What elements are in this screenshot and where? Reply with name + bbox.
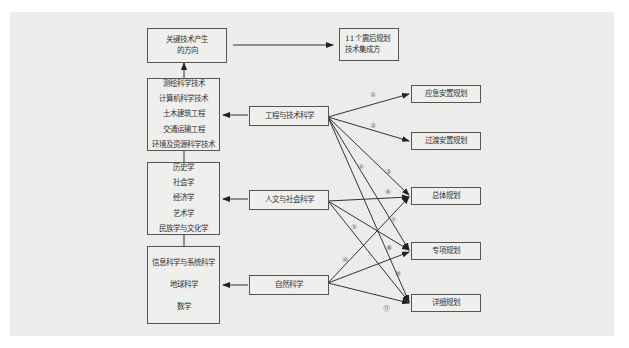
plan-detailed: 详细规划 xyxy=(411,294,481,312)
plan-transition: 过渡安置规划 xyxy=(411,132,481,150)
discipline-item: 历史学 xyxy=(173,163,194,173)
category-natural: 自然科学 xyxy=(249,275,329,295)
engineering-disciplines-box: 测绘科学技术 计算机科学技术 土木建筑工程 交通运输工程 环境及资源科学技术 xyxy=(147,78,220,151)
category-engineering: 工程与技术科学 xyxy=(249,106,329,126)
integration-box: 11个震后规划 技术集成方 xyxy=(339,28,399,61)
link-label-5: ⑤ xyxy=(351,223,357,231)
category-label: 人文与社会科学 xyxy=(265,195,314,205)
key-tech-direction-box: 关键技术产生 的方向 xyxy=(147,28,227,63)
link-label-4: ④ xyxy=(358,163,364,171)
category-label: 工程与技术科学 xyxy=(265,111,314,121)
plan-emergency: 应急安置规划 xyxy=(411,85,481,103)
plan-special: 专项规划 xyxy=(411,242,481,260)
discipline-item: 地球科学 xyxy=(170,280,198,290)
integration-line-1: 11个震后规划 xyxy=(345,34,390,44)
discipline-item: 交通运输工程 xyxy=(163,125,205,135)
link-label-7: ⑦ xyxy=(390,216,396,224)
link-label-2: ② xyxy=(370,122,376,130)
discipline-item: 信息科学与系统科学 xyxy=(152,258,215,268)
discipline-item: 计算机科学技术 xyxy=(159,94,208,104)
discipline-item: 民族学与文化学 xyxy=(159,224,208,234)
key-tech-line-1: 关键技术产生 xyxy=(166,35,208,45)
category-humanities: 人文与社会科学 xyxy=(249,190,329,210)
category-label: 自然科学 xyxy=(275,280,303,290)
link-label-10: ⑩ xyxy=(342,256,348,264)
link-label-9: ⑨ xyxy=(395,270,401,278)
discipline-item: 环境及资源科学技术 xyxy=(152,140,215,150)
discipline-item: 测绘科学技术 xyxy=(163,79,205,89)
natural-disciplines-box: 信息科学与系统科学 地球科学 数学 xyxy=(147,246,220,324)
discipline-item: 数学 xyxy=(177,302,191,312)
plan-label: 总体规划 xyxy=(432,191,460,201)
link-label-1: ① xyxy=(370,91,376,99)
plan-label: 应急安置规划 xyxy=(425,89,467,99)
connection-lines: ① ② ③ ④ ⑤ ⑥ ⑦ ⑧ ⑨ ⑩ ⑪ xyxy=(0,0,629,348)
humanities-disciplines-box: 历史学 社会学 经济学 艺术学 民族学与文化学 xyxy=(147,162,220,235)
plan-label: 过渡安置规划 xyxy=(425,136,467,146)
discipline-item: 艺术学 xyxy=(173,209,194,219)
discipline-item: 经济学 xyxy=(173,193,194,203)
discipline-item: 土木建筑工程 xyxy=(163,109,205,119)
link-label-6: ⑥ xyxy=(385,188,391,196)
integration-line-2: 技术集成方 xyxy=(345,45,380,55)
link-label-11: ⑪ xyxy=(383,305,390,313)
key-tech-line-2: 的方向 xyxy=(177,46,198,56)
plan-master: 总体规划 xyxy=(411,187,481,205)
discipline-item: 社会学 xyxy=(173,178,194,188)
plan-label: 详细规划 xyxy=(432,298,460,308)
link-label-8: ⑧ xyxy=(386,244,392,252)
plan-label: 专项规划 xyxy=(432,246,460,256)
link-label-3: ③ xyxy=(385,168,391,176)
